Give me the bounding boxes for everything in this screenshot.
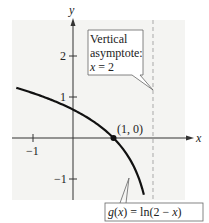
y-tick-label-1: 1	[60, 90, 66, 104]
x-axis-arrow-icon	[186, 136, 194, 141]
graph-figure: x −1 y 2 1 −1 (1, 0) Vertical asymptote:…	[0, 0, 209, 223]
y-axis-label: y	[68, 3, 75, 17]
x-tick-label-neg1: −1	[26, 144, 39, 158]
y-tick-label-neg1: −1	[54, 172, 67, 186]
callout-line-2: asymptote:	[90, 46, 143, 60]
callout-line-3: x = 2	[89, 60, 114, 74]
callout-line-1: Vertical	[90, 32, 128, 46]
x-intercept-point	[111, 135, 117, 141]
point-label: (1, 0)	[117, 122, 143, 136]
y-tick-label-2: 2	[60, 49, 66, 63]
x-axis-label: x	[195, 131, 202, 145]
function-label: g(x) = ln(2 − x)	[108, 205, 182, 219]
